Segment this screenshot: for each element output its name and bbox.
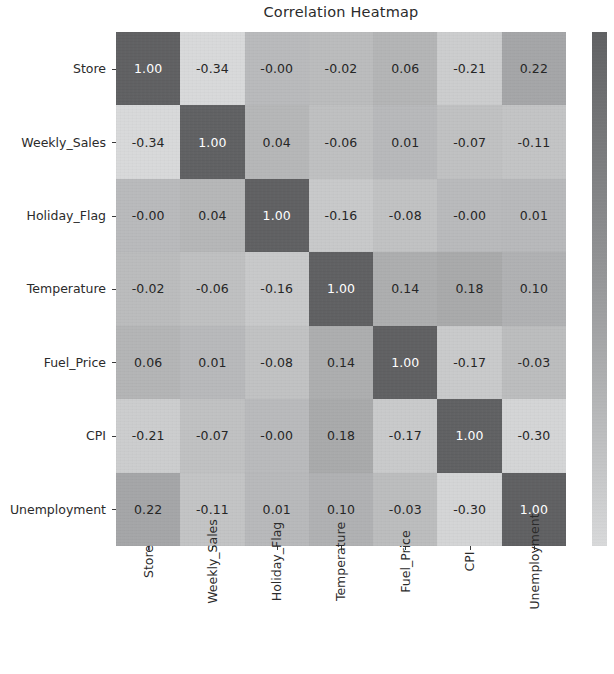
- heatmap-cell: 0.14: [373, 252, 437, 325]
- heatmap-cell-value: -0.30: [517, 428, 550, 443]
- heatmap-cell-value: -0.02: [325, 61, 358, 76]
- heatmap-cell: -0.00: [245, 399, 309, 472]
- heatmap-cell: -0.21: [116, 399, 180, 472]
- heatmap-cell: 1.00: [245, 179, 309, 252]
- heatmap-cell: 0.14: [309, 326, 373, 399]
- heatmap-cell-value: -0.34: [132, 135, 165, 150]
- heatmap-cell-value: -0.11: [517, 135, 550, 150]
- heatmap-cell-value: -0.03: [389, 502, 422, 517]
- heatmap-cell: -0.16: [245, 252, 309, 325]
- y-axis-tick-label: Holiday_Flag: [0, 179, 110, 252]
- x-axis-tick-mark: Holiday_Flag: [245, 546, 309, 674]
- y-axis-tick-label: CPI: [0, 399, 110, 472]
- heatmap-cell-value: 0.14: [327, 355, 355, 370]
- heatmap-cell: 0.06: [116, 326, 180, 399]
- heatmap-cell-value: 0.04: [263, 135, 291, 150]
- heatmap-cell: -0.34: [116, 105, 180, 178]
- heatmap-cell: 0.01: [180, 326, 244, 399]
- heatmap-cell-value: -0.00: [453, 208, 486, 223]
- heatmap-cell-value: -0.16: [260, 281, 293, 296]
- heatmap-cell: -0.11: [502, 105, 566, 178]
- heatmap-cell: -0.16: [309, 179, 373, 252]
- heatmap-cell: 0.04: [245, 105, 309, 178]
- heatmap-cell-value: -0.02: [132, 281, 165, 296]
- heatmap-cell: 1.00: [373, 326, 437, 399]
- heatmap-cell-value: 0.18: [327, 428, 355, 443]
- y-axis-tick-label: Store: [0, 32, 110, 105]
- heatmap-cell-value: 0.01: [198, 355, 226, 370]
- heatmap-cell-value: -0.06: [325, 135, 358, 150]
- heatmap-cell: 0.04: [180, 179, 244, 252]
- heatmap-cell-value: 1.00: [391, 355, 419, 370]
- heatmap-cell: -0.34: [180, 32, 244, 105]
- heatmap-cell-value: -0.08: [260, 355, 293, 370]
- heatmap-cell-value: 1.00: [263, 208, 291, 223]
- heatmap-cell: -0.03: [502, 326, 566, 399]
- y-axis-tick-label: Unemployment: [0, 473, 110, 546]
- correlation-heatmap-figure: Correlation Heatmap StoreWeekly_SalesHol…: [0, 0, 614, 674]
- x-axis-tick-label: Unemployment: [526, 513, 541, 609]
- heatmap-cell: 1.00: [180, 105, 244, 178]
- heatmap-cell-value: -0.17: [453, 355, 486, 370]
- heatmap-cell-value: 0.06: [134, 355, 162, 370]
- x-axis-tick-mark: Temperature: [309, 546, 373, 674]
- heatmap-cell-value: 0.01: [263, 502, 291, 517]
- heatmap-cell: 0.18: [437, 252, 501, 325]
- heatmap-cell-value: -0.07: [453, 135, 486, 150]
- page-title: Correlation Heatmap: [116, 4, 566, 20]
- x-axis-tick-label: Holiday_Flag: [269, 522, 284, 602]
- heatmap-cell-value: 0.01: [391, 135, 419, 150]
- heatmap-cell: -0.08: [245, 326, 309, 399]
- heatmap-cell-value: 0.01: [520, 208, 548, 223]
- heatmap-cell: 1.00: [437, 399, 501, 472]
- heatmap-cell: -0.07: [437, 105, 501, 178]
- heatmap-cell: 0.06: [373, 32, 437, 105]
- heatmap-cell: 1.00: [116, 32, 180, 105]
- heatmap-cell-value: -0.21: [453, 61, 486, 76]
- x-axis-tick-mark: Fuel_Price: [373, 546, 437, 674]
- heatmap-cell: 0.22: [502, 32, 566, 105]
- y-axis-labels: StoreWeekly_SalesHoliday_FlagTemperature…: [0, 32, 110, 546]
- heatmap-cell-value: -0.30: [453, 502, 486, 517]
- heatmap-cell: -0.17: [373, 399, 437, 472]
- heatmap-cell: -0.30: [437, 473, 501, 546]
- y-axis-tick-label: Fuel_Price: [0, 326, 110, 399]
- heatmap-cell-value: -0.16: [325, 208, 358, 223]
- heatmap-cell: 0.01: [502, 179, 566, 252]
- heatmap-cell: -0.02: [116, 252, 180, 325]
- heatmap-cell: 0.18: [309, 399, 373, 472]
- heatmap-cell: -0.06: [180, 252, 244, 325]
- y-axis-tick-label: Temperature: [0, 252, 110, 325]
- heatmap-cell-value: -0.08: [389, 208, 422, 223]
- heatmap-cell: -0.00: [437, 179, 501, 252]
- y-axis-tick-label: Weekly_Sales: [0, 105, 110, 178]
- heatmap-cell: 0.22: [116, 473, 180, 546]
- heatmap-cell-grid: 1.00-0.34-0.00-0.020.06-0.210.22-0.341.0…: [116, 32, 566, 546]
- heatmap-cell-value: 0.22: [520, 61, 548, 76]
- heatmap-cell-value: -0.21: [132, 428, 165, 443]
- heatmap-cell-value: -0.07: [196, 428, 229, 443]
- heatmap-cell-value: 0.04: [198, 208, 226, 223]
- x-axis-tick-mark: Weekly_Sales: [180, 546, 244, 674]
- heatmap-cell: -0.06: [309, 105, 373, 178]
- heatmap-cell: -0.17: [437, 326, 501, 399]
- heatmap-cell-value: -0.17: [389, 428, 422, 443]
- colorbar-gradient: [592, 32, 607, 546]
- heatmap-cell-value: 1.00: [198, 135, 226, 150]
- x-axis-tick-label: Store: [141, 545, 156, 578]
- heatmap-cell-value: -0.00: [260, 61, 293, 76]
- heatmap-cell-value: -0.00: [132, 208, 165, 223]
- colorbar[interactable]: [592, 32, 607, 546]
- heatmap-cell-value: 0.18: [455, 281, 483, 296]
- x-axis-labels: StoreWeekly_SalesHoliday_FlagTemperature…: [116, 546, 566, 674]
- heatmap-cell-value: 1.00: [455, 428, 483, 443]
- x-axis-tick-mark: CPI: [437, 546, 501, 674]
- heatmap-cell-value: 0.10: [327, 502, 355, 517]
- heatmap-cell: -0.07: [180, 399, 244, 472]
- heatmap-cell: -0.08: [373, 179, 437, 252]
- heatmap-cell: 0.01: [373, 105, 437, 178]
- heatmap-cell-value: 0.06: [391, 61, 419, 76]
- heatmap-cell-value: 1.00: [520, 502, 548, 517]
- x-axis-tick-mark: Unemployment: [502, 546, 566, 674]
- heatmap-cell: -0.21: [437, 32, 501, 105]
